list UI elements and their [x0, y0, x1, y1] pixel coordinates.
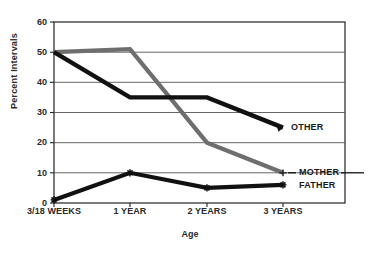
y-tick-label-20: 20 — [17, 137, 47, 147]
y-tick-label-40: 40 — [17, 77, 47, 87]
y-tick-label-30: 30 — [17, 107, 47, 117]
series-label-mother: MOTHER — [299, 167, 339, 177]
y-tick-label-60: 60 — [17, 17, 47, 27]
x-tick-label-3-18-weeks: 3/18 WEEKS — [4, 206, 104, 216]
x-tick-label-3-years: 3 YEARS — [248, 206, 318, 216]
y-tick-label-50: 50 — [17, 47, 47, 57]
line-chart-figure: 60 50 40 30 20 10 0 3/18 WEEKS 1 YEAR 2 … — [0, 0, 375, 253]
series-label-father: FATHER — [299, 180, 336, 190]
y-tick-label-10: 10 — [17, 168, 47, 178]
x-tick-label-2-years: 2 YEARS — [172, 206, 242, 216]
x-tick-label-1-year: 1 YEAR — [95, 206, 165, 216]
series-label-other: OTHER — [291, 122, 324, 132]
y-axis-title: Percent Intervals — [9, 11, 19, 131]
x-axis-title: Age — [160, 229, 220, 239]
